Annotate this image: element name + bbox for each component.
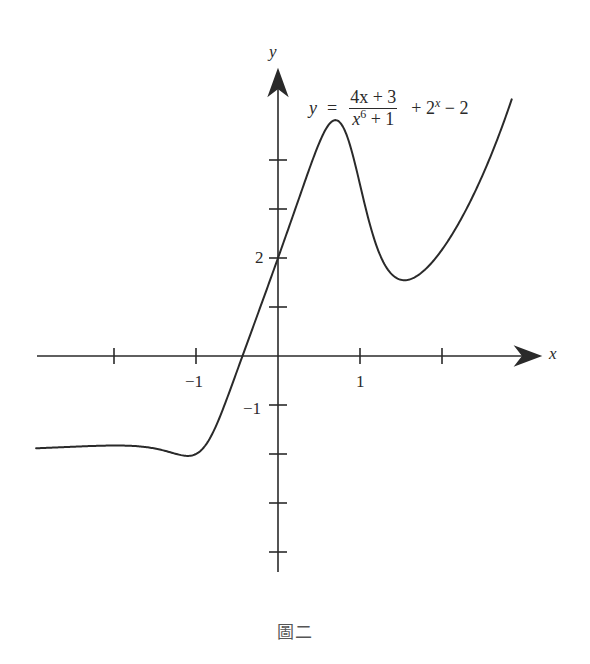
x-axis-label: x — [549, 345, 557, 362]
denominator-rest: + 1 — [371, 109, 395, 129]
y-tick-label-2: 2 — [255, 249, 264, 266]
denominator-exponent: 6 — [360, 107, 366, 121]
function-graph-figure: y x −1 1 2 −1 y = 4x + 3 x6 + 1 + 2x − 2… — [0, 0, 590, 664]
tail-plus: + 2 — [411, 98, 435, 118]
function-formula: y = 4x + 3 x6 + 1 + 2x − 2 — [309, 88, 468, 129]
function-curve — [36, 99, 512, 455]
figure-caption: 圖二 — [0, 618, 590, 643]
formula-denominator: x6 + 1 — [352, 109, 394, 129]
graph-canvas — [0, 0, 590, 664]
formula-equals: = — [327, 98, 337, 119]
formula-fraction: 4x + 3 x6 + 1 — [349, 88, 397, 129]
formula-tail: + 2x − 2 — [411, 98, 468, 119]
formula-lhs: y — [309, 98, 317, 119]
tail-minus: − 2 — [445, 98, 469, 118]
denominator-base: x — [352, 109, 360, 129]
tail-exponent: x — [435, 96, 440, 110]
formula-numerator: 4x + 3 — [349, 88, 397, 109]
axes — [37, 70, 540, 572]
x-tick-label-1: 1 — [356, 373, 365, 390]
y-axis-label: y — [269, 43, 277, 60]
y-tick-label-neg1: −1 — [243, 400, 261, 417]
x-tick-label-neg1: −1 — [185, 373, 203, 390]
